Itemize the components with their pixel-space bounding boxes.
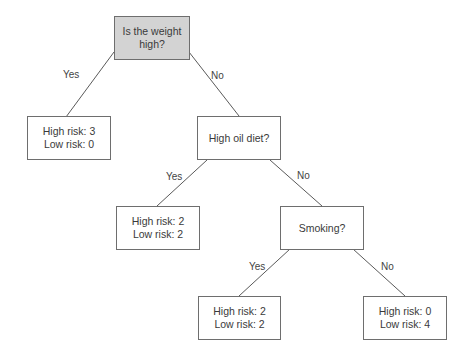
edge-label-smoking-yes: Yes — [249, 261, 265, 273]
node-oil-diet-question: High oil diet? — [197, 116, 281, 160]
edge-oil-no — [270, 160, 322, 206]
edge-root-yes — [66, 52, 114, 117]
node-text-line: High oil diet? — [209, 132, 270, 145]
edge-label-smoking-no: No — [381, 261, 394, 273]
node-text-line: Low risk: 4 — [380, 318, 430, 331]
edge-label-oil-yes: Yes — [166, 171, 182, 183]
node-text-line: High risk: 2 — [132, 215, 185, 228]
edge-smoking-no — [353, 249, 405, 296]
node-leaf-oil-yes: High risk: 2 Low risk: 2 — [116, 206, 200, 250]
node-leaf-smoking-yes: High risk: 2 Low risk: 2 — [198, 296, 281, 340]
edge-label-root-no: No — [211, 70, 224, 82]
node-text-line: Low risk: 2 — [133, 228, 183, 241]
node-text-line: High risk: 2 — [213, 305, 266, 318]
edge-label-oil-no: No — [297, 170, 310, 182]
node-smoking-question: Smoking? — [280, 206, 364, 250]
edge-oil-yes — [157, 160, 207, 206]
node-text-line: Is the weight — [123, 25, 182, 38]
node-text-line: High risk: 0 — [379, 305, 432, 318]
node-text-line: Smoking? — [299, 222, 346, 235]
node-root-weight-question: Is the weight high? — [114, 16, 190, 60]
edge-label-root-yes: Yes — [63, 69, 79, 81]
edge-root-no — [189, 52, 239, 116]
node-text-line: Low risk: 0 — [44, 138, 94, 151]
node-text-line: Low risk: 2 — [214, 318, 264, 331]
node-text-line: High risk: 3 — [43, 125, 96, 138]
node-leaf-smoking-no: High risk: 0 Low risk: 4 — [363, 296, 447, 340]
node-text-line: high? — [139, 38, 165, 51]
node-leaf-weight-yes: High risk: 3 Low risk: 0 — [27, 116, 111, 160]
